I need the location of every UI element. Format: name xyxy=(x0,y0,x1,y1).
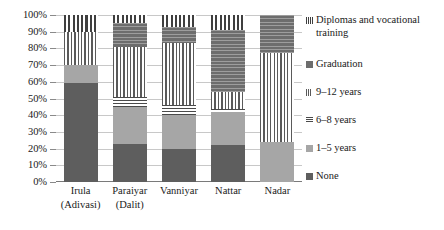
legend-label: 6–8 years xyxy=(316,114,356,127)
bar-segment xyxy=(113,97,147,107)
plot-area xyxy=(56,15,302,182)
bar-stack xyxy=(64,15,98,182)
bar-segment xyxy=(211,30,245,92)
legend-entry[interactable]: Diplomas and vocational training xyxy=(306,14,420,39)
y-axis-tick-label: 40% xyxy=(28,110,47,121)
bar-segment xyxy=(211,92,245,109)
y-axis: 0%10%20%30%40%50%60%70%80%90%100% xyxy=(0,15,56,182)
y-axis-tick-label: 60% xyxy=(28,77,47,88)
bar-segment xyxy=(113,15,147,23)
legend-swatch-icon xyxy=(306,61,313,68)
bar-segment xyxy=(162,15,196,27)
bar-segment xyxy=(260,142,294,182)
bar-segment xyxy=(64,83,98,182)
x-axis-tick-label-line1: Irula xyxy=(71,185,91,196)
bar-segment xyxy=(211,15,245,30)
x-axis-tick-label-line1: Paraiyar xyxy=(112,185,147,196)
bar-column xyxy=(260,15,294,182)
legend-label: 1–5 years xyxy=(316,142,356,155)
y-axis-tick-label: 20% xyxy=(28,143,47,154)
bar-column xyxy=(64,15,98,182)
y-axis-tick-label: 70% xyxy=(28,60,47,71)
legend-label: 9–12 years xyxy=(316,86,361,99)
y-axis-tick-label: 10% xyxy=(28,160,47,171)
bar-segment xyxy=(211,109,245,112)
chart-legend: Diplomas and vocational trainingGraduati… xyxy=(306,10,444,185)
bar-segment xyxy=(113,47,147,97)
bar-segment xyxy=(211,112,245,145)
legend-swatch-icon xyxy=(306,117,313,124)
bar-column xyxy=(113,15,147,182)
y-axis-tick-label: 30% xyxy=(28,127,47,138)
bar-stack xyxy=(162,15,196,182)
x-axis-tick-label-line1: Vanniyar xyxy=(160,185,198,196)
legend-entry[interactable]: Graduation xyxy=(306,58,363,71)
bar-stack xyxy=(260,15,294,182)
x-axis-tick-label: Nattar xyxy=(204,184,253,198)
y-axis-tick-label: 0% xyxy=(33,177,47,188)
legend-swatch-icon xyxy=(306,145,313,152)
legend-swatch-icon xyxy=(306,89,313,96)
legend-label: Graduation xyxy=(316,58,363,71)
legend-entry[interactable]: 6–8 years xyxy=(306,114,356,127)
bar-stack xyxy=(113,15,147,182)
bar-segment xyxy=(64,65,98,83)
bar-column xyxy=(162,15,196,182)
bar-segment xyxy=(162,115,196,148)
legend-swatch-icon xyxy=(306,17,313,24)
y-axis-tick-label: 100% xyxy=(23,10,47,21)
x-axis-tick-label: Paraiyar(Dalit) xyxy=(105,184,154,211)
bar-stack xyxy=(211,15,245,182)
legend-swatch-icon xyxy=(306,173,313,180)
bar-segment xyxy=(113,23,147,46)
bar-segment xyxy=(113,144,147,182)
legend-label: None xyxy=(316,170,339,183)
x-axis-tick-label-line1: Nattar xyxy=(215,185,241,196)
bar-segment xyxy=(113,107,147,144)
x-axis-tick-label: Irula(Adivasi) xyxy=(56,184,105,211)
x-axis-tick-label-line2: (Adivasi) xyxy=(56,198,105,212)
y-axis-tick-label: 50% xyxy=(28,93,47,104)
bar-segment xyxy=(260,53,294,142)
bars-layer xyxy=(56,15,302,182)
bar-segment xyxy=(162,43,196,105)
x-axis-tick-label-line2: (Dalit) xyxy=(105,198,154,212)
legend-entry[interactable]: None xyxy=(306,170,339,183)
legend-entry[interactable]: 1–5 years xyxy=(306,142,356,155)
y-axis-tick-label: 90% xyxy=(28,26,47,37)
bar-segment xyxy=(162,105,196,115)
y-axis-tick-label: 80% xyxy=(28,43,47,54)
stacked-bar-chart: 0%10%20%30%40%50%60%70%80%90%100% Irula(… xyxy=(0,0,444,230)
x-axis-tick-label: Vanniyar xyxy=(154,184,203,198)
legend-entry[interactable]: 9–12 years xyxy=(306,86,361,99)
x-axis-tick-label: Nadar xyxy=(253,184,302,198)
bar-segment xyxy=(64,32,98,65)
bar-segment xyxy=(162,149,196,182)
x-axis-tick-label-line1: Nadar xyxy=(265,185,291,196)
bar-segment xyxy=(260,15,294,53)
y-axis-tick-mark xyxy=(50,182,56,183)
bar-segment xyxy=(162,27,196,44)
legend-label: Diplomas and vocational training xyxy=(316,14,420,39)
bar-segment xyxy=(211,145,245,182)
bar-column xyxy=(211,15,245,182)
bar-segment xyxy=(64,15,98,32)
x-axis: Irula(Adivasi)Paraiyar(Dalit)VanniyarNat… xyxy=(56,184,302,228)
